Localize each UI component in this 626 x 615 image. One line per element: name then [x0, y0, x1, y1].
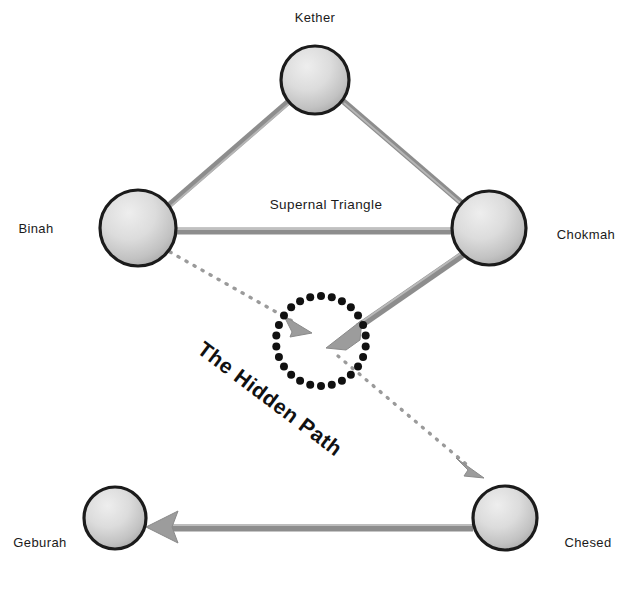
hidden-path-dot: [275, 353, 283, 361]
sephirah-node-geburah[interactable]: [84, 487, 146, 549]
hidden-path-dot: [338, 297, 346, 305]
hidden-path-dot: [328, 381, 336, 389]
hidden-path-dot: [328, 293, 336, 301]
hidden-path-dot: [338, 377, 346, 385]
edge-kether-chokmah-highlight: [344, 103, 465, 207]
kabbalah-tree-diagram: KetherBinahChokmahGeburahChesedSupernal …: [0, 0, 626, 615]
edge-chokmah-hidden-highlight: [357, 251, 464, 325]
hidden-path-dot: [272, 332, 280, 340]
hidden-path-dot: [296, 377, 304, 385]
hidden-path-dot: [287, 303, 295, 311]
hidden-path-dot: [359, 321, 367, 329]
node-label-geburah: Geburah: [13, 535, 66, 550]
arrowhead-binah-hidden: [284, 316, 312, 337]
hidden-path-dot: [287, 371, 295, 379]
hidden-path-dot: [296, 297, 304, 305]
hidden-path-dot: [317, 292, 325, 300]
sephirah-node-chokmah[interactable]: [452, 191, 526, 265]
diagram-canvas: KetherBinahChokmahGeburahChesedSupernal …: [0, 0, 626, 615]
hidden-path-dot: [359, 353, 367, 361]
arrowhead-chokmah-hidden: [326, 320, 362, 350]
region-label-supernal-triangle: Supernal Triangle: [270, 197, 383, 212]
hidden-path-dot: [362, 332, 370, 340]
node-label-binah: Binah: [18, 221, 53, 236]
node-label-chokmah: Chokmah: [557, 227, 615, 242]
edge-hidden-chesed: [338, 356, 466, 464]
sephirah-node-binah[interactable]: [100, 190, 176, 266]
hidden-path-dot: [306, 381, 314, 389]
hidden-path-dot: [306, 293, 314, 301]
hidden-path-dot: [354, 363, 362, 371]
hidden-path-dot: [347, 303, 355, 311]
edge-layer: [146, 101, 484, 543]
hidden-path-dot: [275, 321, 283, 329]
node-label-chesed: Chesed: [564, 535, 611, 550]
hidden-path-dot: [347, 371, 355, 379]
sephirah-node-chesed[interactable]: [473, 486, 537, 550]
hidden-path-dot: [280, 363, 288, 371]
hidden-path-label: The Hidden Path: [194, 337, 347, 460]
hidden-path-dot: [354, 311, 362, 319]
edge-binah-kether-highlight: [169, 104, 289, 208]
hidden-path-dot: [362, 342, 370, 350]
hidden-path-label-group: The Hidden Path: [194, 337, 347, 460]
hidden-path-dot: [317, 382, 325, 390]
edge-binah-kether: [168, 102, 288, 206]
node-label-kether: Kether: [295, 10, 336, 25]
hidden-path-dot: [272, 342, 280, 350]
edge-binah-hidden: [170, 252, 292, 321]
arrowhead-hidden-chesed: [456, 458, 484, 478]
sephirah-node-kether[interactable]: [281, 46, 349, 114]
edge-chokmah-hidden: [358, 253, 465, 327]
hidden-path-dot: [280, 311, 288, 319]
